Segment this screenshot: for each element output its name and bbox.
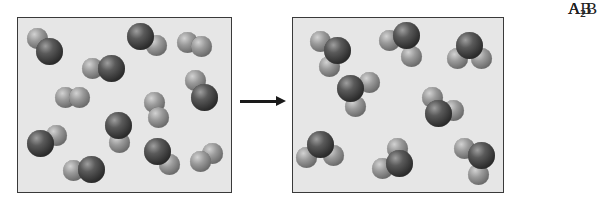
arrow-head-icon (276, 96, 286, 106)
atom-b-icon (324, 37, 351, 64)
atom-a-icon (69, 87, 90, 108)
legend-a2b-main: A (568, 0, 580, 18)
atom-b-icon (127, 23, 154, 50)
atom-b-icon (337, 75, 364, 102)
atom-b-icon (144, 138, 171, 165)
atom-a-icon (191, 36, 212, 57)
reaction-arrow (240, 99, 286, 103)
atom-b-icon (425, 100, 452, 127)
atom-b-icon (307, 131, 334, 158)
atom-b-icon (98, 55, 125, 82)
atom-b-icon (36, 38, 63, 65)
atom-b-icon (386, 150, 413, 177)
atom-b-icon (105, 112, 132, 139)
atom-a-icon (190, 151, 211, 172)
atom-b-icon (456, 32, 483, 59)
atom-a-icon (401, 46, 422, 67)
legend-label-a2b: A2B (568, 0, 597, 19)
atom-b-icon (191, 84, 218, 111)
atom-b-icon (468, 142, 495, 169)
atom-b-icon (27, 130, 54, 157)
atom-b-icon (393, 22, 420, 49)
atom-b-icon (78, 156, 105, 183)
arrow-shaft (240, 100, 278, 103)
legend-a2b-tail: B (586, 0, 597, 18)
atom-a-icon (148, 107, 169, 128)
